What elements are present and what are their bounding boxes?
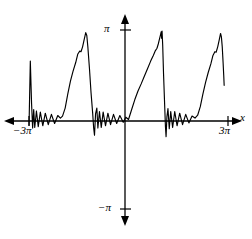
y-axis-up-arrow-icon (121, 14, 129, 24)
x-axis-label-neg-3pi: −3π (13, 125, 31, 136)
y-axis-down-arrow-icon (121, 216, 129, 226)
figure-container: π −π −3π 3π x (0, 0, 252, 239)
x-axis-name-label: x (240, 112, 245, 123)
y-axis-label-pi: π (104, 23, 110, 34)
plot-svg (0, 0, 252, 239)
y-axis-label-neg-pi: −π (98, 202, 111, 213)
x-axis-label-3pi: 3π (219, 125, 230, 136)
